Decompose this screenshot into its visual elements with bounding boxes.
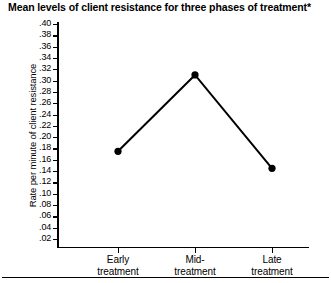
data-point (268, 165, 275, 172)
chart-figure: Mean levels of client resistance for thr… (0, 0, 331, 283)
data-series-layer (0, 0, 331, 283)
series-markers (114, 71, 275, 172)
series-line (118, 75, 272, 168)
data-point (114, 148, 121, 155)
data-point (191, 71, 198, 78)
bottom-rule (2, 277, 329, 278)
